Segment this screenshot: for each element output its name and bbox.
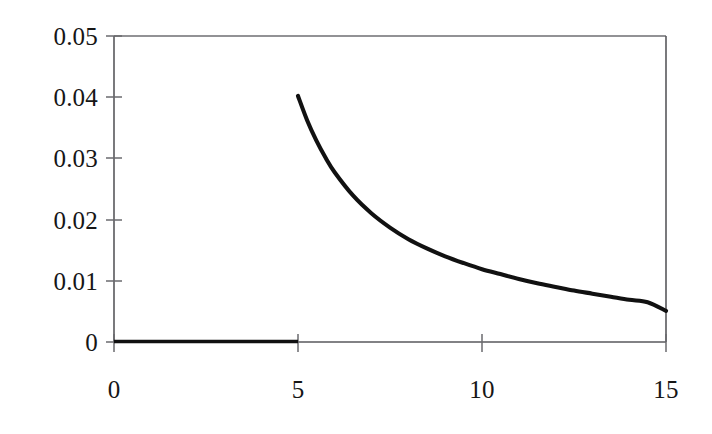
y-tick-label-0.02: 0.02 xyxy=(53,207,98,234)
x-tick-label-0: 0 xyxy=(108,376,121,403)
chart-page: 0.05 0.04 0.03 0.02 0.01 0 0 5 10 15 xyxy=(0,0,712,434)
y-tick-label-0: 0 xyxy=(85,329,98,356)
y-tick-label-0.01: 0.01 xyxy=(53,268,98,295)
y-tick-label-0.03: 0.03 xyxy=(53,145,98,172)
x-tick-label-15: 15 xyxy=(653,376,678,403)
x-tick-label-10: 10 xyxy=(469,376,494,403)
y-tick-label-0.05: 0.05 xyxy=(53,23,98,50)
line-chart-figure: 0.05 0.04 0.03 0.02 0.01 0 0 5 10 15 xyxy=(0,0,712,434)
chart-background xyxy=(0,0,712,434)
plot-canvas: 0.05 0.04 0.03 0.02 0.01 0 0 5 10 15 xyxy=(0,0,712,434)
y-tick-label-0.04: 0.04 xyxy=(53,84,98,111)
x-tick-label-5: 5 xyxy=(292,376,305,403)
